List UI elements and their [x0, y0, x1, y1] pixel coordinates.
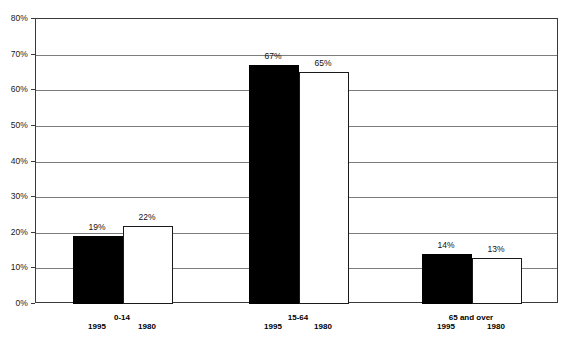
bar-value-15-64-1995: 67%	[248, 51, 298, 61]
x-series-label-0-14-1980: 1980	[122, 322, 172, 331]
x-series-label-0-14-1995: 1995	[72, 322, 122, 331]
y-tick-label-10pct: 10%	[0, 262, 28, 272]
bar-0-14-1995	[73, 236, 123, 304]
y-tick-label-70pct: 70%	[0, 49, 28, 59]
bar-0-14-1980	[123, 226, 173, 304]
x-group-label-65-and-over: 65 and over	[406, 313, 536, 322]
bar-15-64-1980	[299, 72, 349, 304]
x-group-label-15-64: 15-64	[233, 313, 363, 322]
y-tick-label-20pct: 20%	[0, 227, 28, 237]
bar-65-and-over-1980	[472, 258, 522, 304]
bar-chart: 0%10%20%30%40%50%60%70%80% 19%22%67%65%1…	[0, 0, 571, 339]
bar-value-65-and-over-1980: 13%	[471, 244, 521, 254]
y-tick-label-50pct: 50%	[0, 120, 28, 130]
x-series-label-15-64-1980: 1980	[298, 322, 348, 331]
x-group-label-0-14: 0-14	[57, 313, 187, 322]
x-series-label-15-64-1995: 1995	[248, 322, 298, 331]
bar-value-0-14-1995: 19%	[72, 222, 122, 232]
y-tick-label-60pct: 60%	[0, 84, 28, 94]
x-series-label-65-and-over-1995: 1995	[421, 322, 471, 331]
y-tick-label-40pct: 40%	[0, 156, 28, 166]
y-tick-label-30pct: 30%	[0, 191, 28, 201]
y-tick-label-80pct: 80%	[0, 13, 28, 23]
y-tick-mark-0	[31, 303, 35, 304]
bar-value-65-and-over-1995: 14%	[421, 240, 471, 250]
bar-15-64-1995	[249, 65, 299, 304]
bar-65-and-over-1995	[422, 254, 472, 304]
bar-value-0-14-1980: 22%	[122, 212, 172, 222]
bar-value-15-64-1980: 65%	[298, 58, 348, 68]
y-tick-label-0pct: 0%	[0, 298, 28, 308]
x-series-label-65-and-over-1980: 1980	[471, 322, 521, 331]
